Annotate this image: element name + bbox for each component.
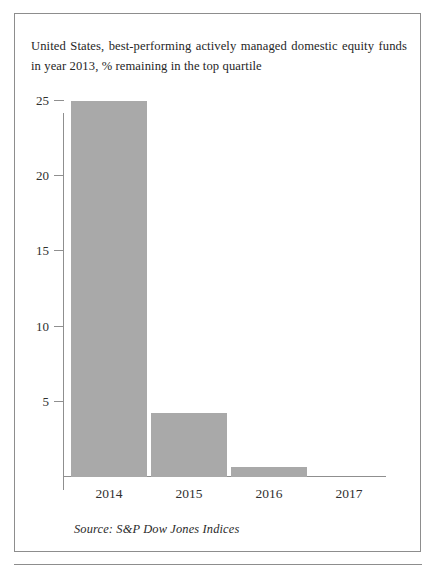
bar-2015[interactable]	[151, 413, 227, 476]
y-tick-label-10: 10	[36, 319, 49, 334]
bar-group	[71, 101, 307, 477]
bottom-divider	[14, 564, 422, 565]
x-axis-labels: 2014 2015 2016 2017	[96, 486, 363, 501]
bar-2014[interactable]	[71, 101, 147, 477]
figure-frame: United States, best-performing actively …	[14, 13, 421, 552]
x-tick-label-2015: 2015	[176, 486, 203, 501]
y-tick-label-20: 20	[36, 168, 49, 183]
x-tick-label-2014: 2014	[96, 486, 123, 501]
y-tick-label-5: 5	[43, 394, 50, 409]
y-tick-label-25: 25	[36, 93, 49, 108]
x-tick-label-2016: 2016	[256, 486, 283, 501]
source-note: Source: S&P Dow Jones Indices	[74, 522, 239, 537]
x-tick-label-2017: 2017	[336, 486, 363, 501]
y-axis-labels: 25 20 15 10 5	[36, 93, 49, 409]
bar-2016[interactable]	[231, 467, 307, 476]
chart-svg: 25 20 15 10 5 2014 2015 2016 2017	[15, 14, 422, 553]
bar-chart: 25 20 15 10 5 2014 2015 2016 2017	[15, 14, 422, 553]
y-axis-ticks	[54, 101, 64, 402]
y-tick-label-15: 15	[36, 243, 49, 258]
